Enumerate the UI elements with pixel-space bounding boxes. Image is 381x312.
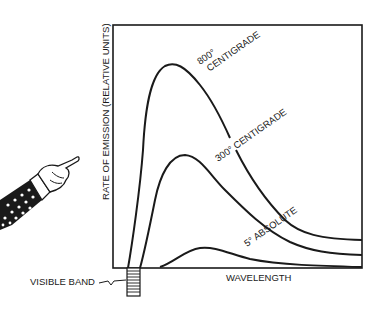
curve-300-centigrade	[140, 155, 362, 268]
pointing-hand-icon	[0, 157, 79, 230]
visible-band-leader	[99, 280, 126, 285]
emission-diagram: RATE OF EMISSION (RELATIVE UNITS) WAVELE…	[0, 0, 381, 312]
curve-5-absolute	[160, 248, 362, 267]
visible-band	[127, 268, 140, 296]
y-axis-label: RATE OF EMISSION (RELATIVE UNITS)	[100, 23, 111, 200]
curve-800-centigrade-tail	[236, 150, 362, 240]
label-800-centigrade: 800° CENTIGRADE	[195, 20, 262, 76]
visible-band-label: VISIBLE BAND	[30, 276, 95, 287]
curve-800-centigrade	[128, 64, 230, 268]
x-axis-label: WAVELENGTH	[226, 272, 292, 283]
label-300-centigrade: 300° CENTIGRADE	[213, 106, 289, 164]
